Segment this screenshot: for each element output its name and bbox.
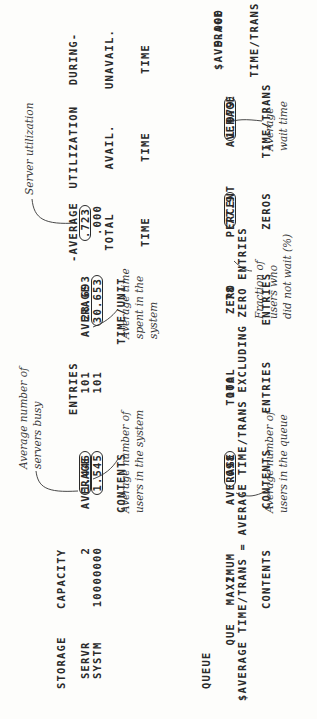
header-entries: ENTRIES <box>67 362 79 415</box>
annotation-servers-busy: Average number of servers busy <box>16 367 44 469</box>
header-queue: QUEUE <box>200 651 212 689</box>
row-que-max-contents: 2 <box>224 539 236 619</box>
row-que-s-avg-time-trans: 9.000 <box>212 9 224 83</box>
annotation-users-in-queue: Average number of users in the queue <box>262 411 290 513</box>
annotation-server-utilization: Server utilization <box>22 103 36 195</box>
row-que-zero-entries: 78 <box>224 253 236 333</box>
gpss-output-figure: STORAGE CAPACITY AVERAGE CONTENTS ENTRIE… <box>0 0 317 719</box>
annotation-time-in-system: Average time spent in the system <box>118 268 160 339</box>
header-storage: STORAGE <box>55 636 67 689</box>
queue-footnote: $AVERAGE TIME/TRANS = AVERAGE TIME/TRANS… <box>236 227 248 701</box>
row-que-total-entries: 100 <box>224 347 236 427</box>
row-que-avg-time-trans: 1.979 <box>224 76 236 162</box>
row-systm-avg-time-unit: 30.653 <box>91 275 103 347</box>
row-systm-avg-contents: 1.545 <box>91 451 103 509</box>
row-que-percent-zeros: 77.9 <box>224 175 236 245</box>
row-servr-capacity: 2 <box>79 547 91 609</box>
row-servr-entries: 101 <box>79 371 91 419</box>
row-servr-avg-contents: 1.446 <box>79 451 91 509</box>
row-que-avg-contents: .098 <box>224 451 236 519</box>
row-servr-avg-total-time: .723 <box>79 205 91 267</box>
row-systm-capacity: 10000000 <box>91 547 103 609</box>
row-servr-name: SERVR <box>79 641 91 679</box>
row-systm-entries: 101 <box>91 371 103 419</box>
annotation-users-in-system: Average number of users in the system <box>118 410 146 513</box>
annotation-did-not-wait: Fraction of users who did not wait (%) <box>252 234 294 319</box>
row-servr-avg-time-unit: 28.693 <box>79 275 91 347</box>
row-que-name: QUE <box>224 623 236 689</box>
row-systm-avg-total-time: .000 <box>91 205 103 267</box>
header-s-average-time-trans: $AVERAGE TIME/TRANS <box>188 0 284 83</box>
header-utilization-unavail: DURING- UNAVAIL. TIME <box>43 19 175 99</box>
row-systm-name: SYSTM <box>91 641 103 679</box>
header-capacity: CAPACITY <box>55 549 67 609</box>
annotation-wait-time: Average wait time <box>262 101 290 151</box>
header-utilization-avail: UTILIZATION AVAIL. TIME <box>43 97 175 197</box>
header-maximum-contents: MAXIMUM CONTENTS <box>200 539 296 619</box>
header-average-total-time: -AVERAGE TOTAL TIME <box>43 197 175 267</box>
